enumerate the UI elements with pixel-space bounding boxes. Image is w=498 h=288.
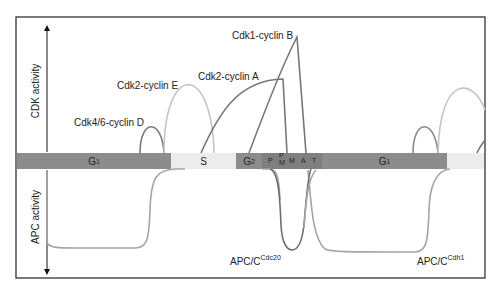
cdk46-cyclinD-curve-next (413, 127, 438, 153)
cdk2-cyclinE-curve-next (438, 88, 485, 153)
apc-cdh1-curve (47, 169, 185, 248)
apc-cdh1-curve-next (308, 169, 450, 252)
apc-cdc20-label: APC/CCdc20 (230, 254, 281, 267)
curves-layer (0, 0, 498, 288)
cdk2-cyclinA-label: Cdk2-cyclin A (198, 72, 259, 82)
apc-cdc20-label-main: APC/C (230, 256, 261, 267)
apc-cdc20-label-sup: Cdc20 (261, 254, 281, 261)
cdk-activity-label: CDK activity (31, 61, 41, 121)
cdk46-cyclinD-curve (140, 127, 164, 153)
cdk1-cyclinB-label: Cdk1-cyclin B (232, 31, 293, 41)
apc-cdh1-label-main: APC/C (417, 256, 448, 267)
apc-cdh1-label: APC/CCdh1 (417, 254, 464, 267)
apc-activity-label: APC activity (31, 187, 41, 247)
cdk2-cyclinA-curve-next (477, 140, 485, 153)
apc-cdh1-label-sup: Cdh1 (448, 254, 465, 261)
cdk1-cyclinB-curve (249, 37, 306, 153)
cdk2-cyclinE-label: Cdk2-cyclin E (117, 81, 178, 91)
cell-cycle-diagram: G1 S G2 P P M M A T G1 (0, 0, 498, 288)
cdk46-cyclinD-label: Cdk4/6-cyclin D (74, 118, 144, 128)
